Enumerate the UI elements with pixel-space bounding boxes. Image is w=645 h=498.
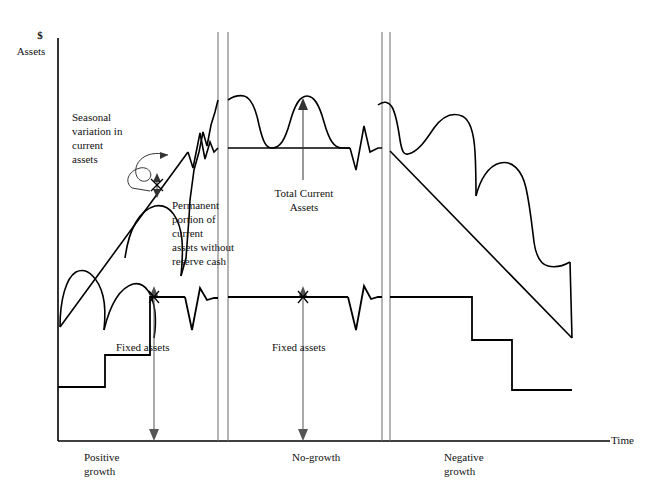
fixed-assets-middle-label: Fixed assets	[272, 340, 325, 354]
y-axis-unit-label: $	[26, 28, 54, 42]
seasonal-variation-positive-growth	[60, 200, 190, 338]
y-axis-label: Assets	[8, 44, 54, 58]
fixed-assets-line	[58, 286, 572, 390]
seasonal-variation-negative-growth	[378, 102, 572, 338]
phase-label-negative-growth: Negative growth	[444, 450, 524, 478]
phase-divider-right	[382, 32, 390, 441]
permanent-portion-label: Permanent portion of current assets with…	[172, 198, 256, 268]
total-current-assets-label: Total Current Assets	[258, 186, 350, 214]
fixed-assets-middle-arrow	[298, 286, 308, 441]
phase-label-positive-growth: Positive growth	[84, 450, 164, 478]
total-current-assets-arrow	[298, 98, 308, 180]
seasonal-variation-no-growth	[228, 96, 350, 148]
fixed-assets-left-label: Fixed assets	[116, 340, 169, 354]
axis-group	[58, 38, 610, 441]
seasonal-variation-label: Seasonal variation in current assets	[72, 110, 158, 166]
chart-canvas	[0, 0, 645, 498]
x-axis-label: Time	[611, 433, 634, 447]
phase-label-no-growth: No-growth	[292, 450, 372, 464]
assets-over-time-chart: $ Assets Time Seasonal variation in curr…	[0, 0, 645, 498]
